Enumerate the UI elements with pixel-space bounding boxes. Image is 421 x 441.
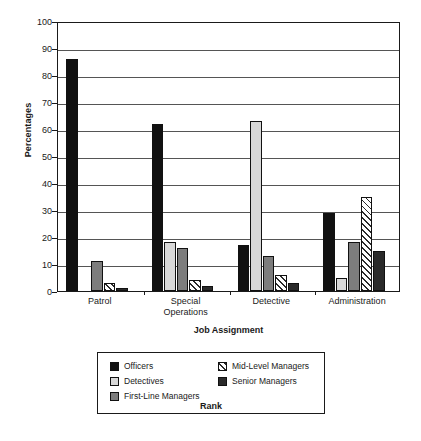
x-axis-tick-label: Detective bbox=[229, 296, 315, 307]
x-axis-tick-label-line: Patrol bbox=[57, 296, 143, 307]
bar-midlevel bbox=[275, 275, 287, 291]
x-axis-tick-label-line: Administration bbox=[314, 296, 400, 307]
bar-midlevel bbox=[104, 283, 116, 291]
legend-swatch-officers bbox=[110, 362, 119, 371]
bar-officers bbox=[323, 213, 335, 291]
legend-item[interactable]: Senior Managers bbox=[218, 376, 297, 386]
bar-officers bbox=[238, 245, 250, 291]
y-axis-tick-label: 80 bbox=[0, 71, 57, 81]
legend-swatch-midlevel bbox=[218, 362, 227, 371]
y-axis-tick-label: 0 bbox=[0, 287, 57, 297]
bar-firstline bbox=[177, 248, 189, 291]
bar-detectives bbox=[336, 278, 348, 292]
bar-group bbox=[144, 23, 230, 291]
x-axis-tick-mark bbox=[230, 291, 231, 295]
bar-group bbox=[315, 23, 401, 291]
x-axis-tick-label-line: Special bbox=[143, 296, 229, 307]
bar-senior bbox=[373, 251, 385, 292]
bar-group bbox=[230, 23, 316, 291]
x-axis-title: Job Assignment bbox=[57, 325, 400, 335]
legend-label: Mid-Level Managers bbox=[232, 361, 309, 371]
y-axis-tick-label: 90 bbox=[0, 44, 57, 54]
y-axis-tick-label: 10 bbox=[0, 260, 57, 270]
y-axis-tick-label: 40 bbox=[0, 179, 57, 189]
legend-item[interactable]: Officers bbox=[110, 361, 153, 371]
legend-swatch-senior bbox=[218, 377, 227, 386]
legend-swatch-detectives bbox=[110, 377, 119, 386]
x-axis-tick-label-line: Operations bbox=[143, 307, 229, 318]
x-axis-tick-mark bbox=[144, 291, 145, 295]
legend-label: Officers bbox=[124, 361, 153, 371]
bar-midlevel bbox=[189, 280, 201, 291]
y-axis-tick-label: 60 bbox=[0, 125, 57, 135]
bar-chart-figure: Percentages 0102030405060708090100 Patro… bbox=[0, 0, 421, 441]
bar-senior bbox=[202, 286, 214, 291]
bar-detectives bbox=[250, 121, 262, 291]
chart-legend: Rank OfficersDetectivesFirst-Line Manage… bbox=[97, 352, 325, 414]
y-axis-tick-label: 70 bbox=[0, 98, 57, 108]
plot-area bbox=[57, 22, 400, 292]
bar-senior bbox=[288, 283, 300, 291]
legend-label: Senior Managers bbox=[232, 376, 297, 386]
x-axis-tick-label: SpecialOperations bbox=[143, 296, 229, 318]
bar-officers bbox=[152, 124, 164, 291]
bar-firstline bbox=[348, 242, 360, 291]
bar-detectives bbox=[164, 242, 176, 291]
legend-title: Rank bbox=[98, 401, 324, 411]
y-axis-tick-label: 30 bbox=[0, 206, 57, 216]
bar-firstline bbox=[91, 261, 103, 291]
y-axis-tick-label: 100 bbox=[0, 17, 57, 27]
x-axis-tick-label-line: Detective bbox=[229, 296, 315, 307]
legend-label: Detectives bbox=[124, 376, 164, 386]
x-axis-tick-label: Patrol bbox=[57, 296, 143, 307]
y-axis-tick-mark bbox=[52, 292, 57, 293]
bar-group bbox=[58, 23, 144, 291]
bar-firstline bbox=[263, 256, 275, 291]
legend-item[interactable]: Mid-Level Managers bbox=[218, 361, 309, 371]
y-axis-tick-label: 20 bbox=[0, 233, 57, 243]
x-axis-tick-label: Administration bbox=[314, 296, 400, 307]
legend-item[interactable]: Detectives bbox=[110, 376, 164, 386]
x-axis-tick-mark bbox=[315, 291, 316, 295]
legend-swatch-firstline bbox=[110, 392, 119, 401]
legend-label: First-Line Managers bbox=[124, 391, 200, 401]
bar-midlevel bbox=[361, 197, 373, 292]
bar-officers bbox=[66, 59, 78, 291]
bar-senior bbox=[116, 288, 128, 291]
y-axis-tick-label: 50 bbox=[0, 152, 57, 162]
legend-item[interactable]: First-Line Managers bbox=[110, 391, 200, 401]
